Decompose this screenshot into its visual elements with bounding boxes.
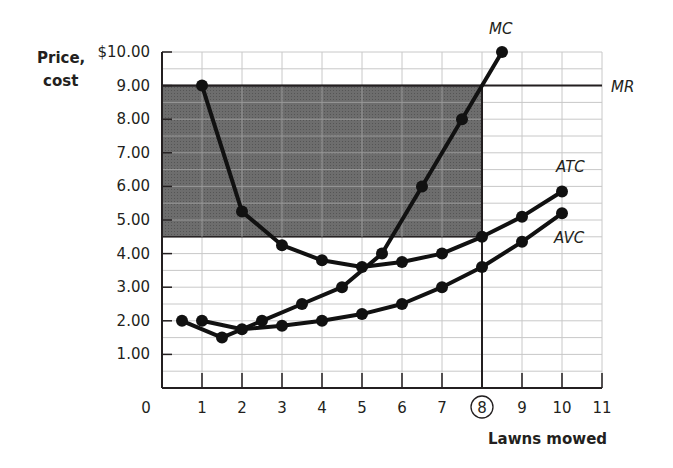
atc-curve-label: ATC xyxy=(555,158,585,176)
y-tick-label: 8.00 xyxy=(117,110,150,128)
avc-curve-label: AVC xyxy=(553,229,585,247)
data-point xyxy=(376,248,388,260)
data-point xyxy=(316,315,328,327)
x-tick-label: 8 xyxy=(477,399,487,417)
data-point xyxy=(296,298,308,310)
x-tick-label: 2 xyxy=(237,399,247,417)
cost-curves-chart: 01234567891011$10.009.008.007.006.005.00… xyxy=(0,0,673,468)
data-point xyxy=(436,248,448,260)
data-point xyxy=(556,185,568,197)
x-tick-label: 6 xyxy=(397,399,407,417)
y-tick-label: $10.00 xyxy=(98,43,151,61)
x-tick-label: 10 xyxy=(552,399,571,417)
mc-curve-label: MC xyxy=(489,20,513,38)
x-tick-label: 9 xyxy=(517,399,527,417)
data-point xyxy=(516,211,528,223)
data-point xyxy=(216,332,228,344)
data-point xyxy=(496,46,508,58)
y-tick-label: 4.00 xyxy=(117,245,150,263)
y-axis-label-line2: cost xyxy=(43,72,78,90)
y-tick-label: 3.00 xyxy=(117,278,150,296)
data-point xyxy=(196,315,208,327)
x-tick-label: 3 xyxy=(277,399,287,417)
x-axis-label: Lawns mowed xyxy=(488,430,607,448)
x-tick-label: 5 xyxy=(357,399,367,417)
data-point xyxy=(416,180,428,192)
data-point xyxy=(316,254,328,266)
data-point xyxy=(396,298,408,310)
data-point xyxy=(516,236,528,248)
data-point xyxy=(356,261,368,273)
y-axis-label-line1: Price, xyxy=(37,49,85,67)
data-point xyxy=(176,315,188,327)
x-tick-label: 0 xyxy=(141,399,151,417)
data-point xyxy=(236,323,248,335)
data-point xyxy=(436,281,448,293)
y-tick-label: 1.00 xyxy=(117,345,150,363)
data-point xyxy=(476,231,488,243)
data-point xyxy=(356,308,368,320)
data-point xyxy=(236,206,248,218)
x-tick-label: 1 xyxy=(197,399,207,417)
data-point xyxy=(196,80,208,92)
y-tick-label: 7.00 xyxy=(117,144,150,162)
data-point xyxy=(396,256,408,268)
mr-line-label: MR xyxy=(611,78,634,96)
y-tick-label: 9.00 xyxy=(117,77,150,95)
data-point xyxy=(456,113,468,125)
data-point xyxy=(256,315,268,327)
x-tick-label: 4 xyxy=(317,399,327,417)
y-tick-label: 5.00 xyxy=(117,211,150,229)
data-point xyxy=(336,281,348,293)
x-tick-label: 11 xyxy=(592,399,611,417)
y-tick-label: 6.00 xyxy=(117,177,150,195)
data-point xyxy=(476,261,488,273)
data-point xyxy=(276,239,288,251)
y-tick-label: 2.00 xyxy=(117,312,150,330)
data-point xyxy=(556,207,568,219)
data-point xyxy=(276,320,288,332)
x-tick-label: 7 xyxy=(437,399,447,417)
